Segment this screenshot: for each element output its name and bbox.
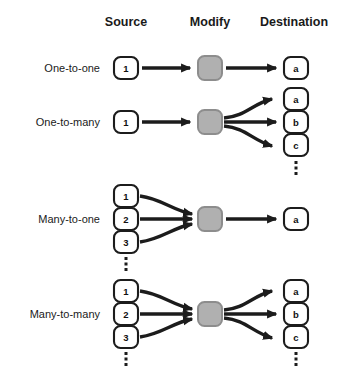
destination-ellipsis-icon — [295, 352, 298, 366]
destination-node[interactable]: b — [284, 111, 308, 133]
destination-node-label: b — [293, 117, 299, 128]
source-ellipsis-icon — [125, 257, 128, 271]
modify-node[interactable] — [198, 302, 222, 326]
source-node[interactable]: 1 — [114, 185, 138, 207]
diagram-row-one-to-many: One-to-many 1 a b — [36, 88, 308, 175]
destination-node[interactable]: a — [284, 88, 308, 110]
source-node[interactable]: 1 — [114, 111, 138, 133]
source-node[interactable]: 1 — [114, 57, 138, 79]
destination-node-label: a — [293, 94, 299, 105]
source-ellipsis-icon — [125, 352, 128, 366]
source-node-label: 3 — [123, 237, 128, 248]
diagram-canvas: Source Modify Destination One-to-one 1 — [0, 0, 350, 377]
column-header-modify: Modify — [190, 15, 230, 29]
source-node[interactable]: 3 — [114, 231, 138, 253]
destination-node-label: a — [293, 286, 299, 297]
source-node[interactable]: 3 — [114, 326, 138, 348]
row-label-one-to-many: One-to-many — [36, 116, 101, 128]
arrow-source-to-modify — [140, 196, 192, 214]
modify-node-box — [198, 56, 222, 80]
column-header-destination: Destination — [260, 15, 328, 29]
column-header-source: Source — [105, 15, 147, 29]
source-node-label: 2 — [123, 214, 128, 225]
row-label-many-to-one: Many-to-one — [38, 213, 100, 225]
source-node[interactable]: 2 — [114, 303, 138, 325]
arrow-modify-to-destination — [224, 126, 272, 146]
arrow-modify-to-destination — [224, 291, 272, 310]
destination-node-label: b — [293, 309, 299, 320]
source-node[interactable]: 1 — [114, 280, 138, 302]
destination-node-label: a — [293, 63, 299, 74]
source-node-label: 1 — [123, 117, 129, 128]
arrow-modify-to-destination — [224, 99, 272, 118]
destination-node-label: a — [293, 214, 299, 225]
source-node-label: 1 — [123, 191, 129, 202]
arrow-source-to-modify — [140, 224, 192, 242]
arrow-source-to-modify — [140, 319, 192, 337]
arrow-source-to-modify — [140, 291, 192, 309]
row-label-many-to-many: Many-to-many — [30, 308, 101, 320]
modify-node[interactable] — [198, 110, 222, 134]
modify-node-box — [198, 302, 222, 326]
row-label-one-to-one: One-to-one — [44, 62, 100, 74]
destination-node[interactable]: c — [284, 134, 308, 156]
destination-ellipsis-icon — [295, 161, 298, 175]
diagram-row-one-to-one: One-to-one 1 a — [44, 56, 308, 80]
diagram-row-many-to-many: Many-to-many 1 2 3 — [30, 280, 308, 366]
arrow-modify-to-destination — [224, 318, 272, 338]
source-node[interactable]: 2 — [114, 208, 138, 230]
destination-node[interactable]: a — [284, 208, 308, 230]
diagram-row-many-to-one: Many-to-one 1 2 3 — [38, 185, 308, 271]
destination-node-label: c — [293, 140, 298, 151]
destination-node[interactable]: b — [284, 303, 308, 325]
destination-node-label: c — [293, 332, 298, 343]
source-node-label: 2 — [123, 309, 128, 320]
modify-node[interactable] — [198, 207, 222, 231]
cardinality-diagram: Source Modify Destination One-to-one 1 — [0, 0, 350, 377]
source-node-label: 1 — [123, 286, 129, 297]
source-node-label: 3 — [123, 332, 128, 343]
destination-node[interactable]: a — [284, 280, 308, 302]
modify-node[interactable] — [198, 56, 222, 80]
destination-node[interactable]: a — [284, 57, 308, 79]
destination-node[interactable]: c — [284, 326, 308, 348]
modify-node-box — [198, 207, 222, 231]
modify-node-box — [198, 110, 222, 134]
source-node-label: 1 — [123, 63, 129, 74]
